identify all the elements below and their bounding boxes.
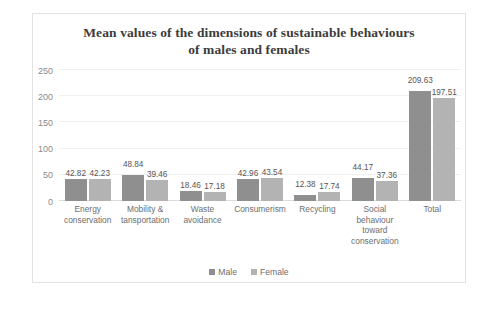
- plot-area: 050100150200250 42.8242.2348.8439.4618.4…: [59, 70, 461, 201]
- bar-value-label: 44.17: [353, 163, 374, 172]
- bar[interactable]: [89, 179, 111, 201]
- bar-female[interactable]: 17.18: [204, 70, 226, 201]
- category-label-line: conservation: [60, 215, 115, 226]
- bar-male[interactable]: 209.63: [409, 70, 431, 201]
- bar-value-label: 18.46: [180, 181, 201, 190]
- category-label-line: Social: [347, 204, 402, 215]
- legend-swatch-icon: [209, 269, 215, 275]
- category-label-line: Energy: [60, 204, 115, 215]
- bar-value-label: 42.23: [89, 169, 110, 178]
- category-label: Energyconservation: [59, 204, 116, 246]
- bar[interactable]: [146, 180, 168, 201]
- y-axis-tick-label: 50: [43, 170, 53, 180]
- category-label: Socialbehaviourtowardconservation: [346, 204, 403, 246]
- bar[interactable]: [261, 178, 283, 201]
- bar-group: 209.63197.51: [404, 70, 461, 201]
- bar-groups: 42.8242.2348.8439.4618.4617.1842.9643.54…: [59, 70, 461, 201]
- category-label: Consumerism: [231, 204, 288, 246]
- bar-group: 18.4617.18: [174, 70, 231, 201]
- bar-female[interactable]: 17.74: [318, 70, 340, 201]
- category-label-line: Waste: [175, 204, 230, 215]
- legend-label: Female: [260, 267, 289, 277]
- bar-value-label: 48.84: [123, 160, 144, 169]
- x-axis-category-labels: EnergyconservationMobility &tansportatio…: [59, 204, 461, 246]
- bar[interactable]: [376, 181, 398, 201]
- category-label-line: tansportation: [117, 215, 172, 226]
- category-label-line: toward: [347, 225, 402, 236]
- legend-label: Male: [218, 267, 237, 277]
- legend-item-female[interactable]: Female: [251, 267, 289, 277]
- bar[interactable]: [352, 178, 374, 201]
- chart-title: Mean values of the dimensions of sustain…: [33, 24, 465, 58]
- bar[interactable]: [204, 192, 226, 201]
- category-label-line: avoidance: [175, 215, 230, 226]
- bar-group: 12.3817.74: [289, 70, 346, 201]
- bar-value-label: 12.38: [295, 180, 316, 189]
- y-axis-tick-label: 200: [38, 92, 53, 102]
- bar-value-label: 17.74: [319, 182, 340, 191]
- category-label-line: behaviour: [347, 215, 402, 226]
- bar-male[interactable]: 42.82: [65, 70, 87, 201]
- category-label-line: Mobility &: [117, 204, 172, 215]
- legend-swatch-icon: [251, 269, 257, 275]
- bar-value-label: 209.63: [408, 76, 433, 85]
- bar-value-label: 43.54: [262, 168, 283, 177]
- bar[interactable]: [294, 195, 316, 201]
- category-label-line: Consumerism: [232, 204, 287, 215]
- category-label: Total: [404, 204, 461, 246]
- bar-value-label: 39.46: [147, 170, 168, 179]
- category-label-line: Recycling: [290, 204, 345, 215]
- y-axis-tick-label: 150: [38, 118, 53, 128]
- chart-title-line-1: Mean values of the dimensions of sustain…: [33, 24, 465, 41]
- bar-group: 42.8242.23: [59, 70, 116, 201]
- bar[interactable]: [122, 175, 144, 201]
- category-label: Recycling: [289, 204, 346, 246]
- bar-male[interactable]: 12.38: [294, 70, 316, 201]
- y-axis-tick-label: 100: [38, 144, 53, 154]
- bar-group: 48.8439.46: [116, 70, 173, 201]
- category-label: Mobility &tansportation: [116, 204, 173, 246]
- bar-female[interactable]: 37.36: [376, 70, 398, 201]
- bar[interactable]: [65, 179, 87, 201]
- bar-male[interactable]: 48.84: [122, 70, 144, 201]
- bar-female[interactable]: 43.54: [261, 70, 283, 201]
- chart-container: Mean values of the dimensions of sustain…: [32, 13, 466, 283]
- bar-female[interactable]: 42.23: [89, 70, 111, 201]
- bar[interactable]: [180, 191, 202, 201]
- legend-item-male[interactable]: Male: [209, 267, 237, 277]
- category-label: Wasteavoidance: [174, 204, 231, 246]
- chart-title-line-2: of males and females: [33, 41, 465, 58]
- bar-female[interactable]: 39.46: [146, 70, 168, 201]
- bar-value-label: 17.18: [204, 182, 225, 191]
- bar[interactable]: [237, 179, 259, 202]
- bar[interactable]: [433, 98, 455, 201]
- bar-value-label: 197.51: [432, 88, 457, 97]
- category-label-line: conservation: [347, 236, 402, 247]
- bar-value-label: 42.82: [65, 169, 86, 178]
- y-axis-tick-label: 250: [38, 66, 53, 76]
- bar-female[interactable]: 197.51: [433, 70, 455, 201]
- bar-male[interactable]: 18.46: [180, 70, 202, 201]
- bar-value-label: 37.36: [377, 171, 398, 180]
- chart-legend: MaleFemale: [33, 267, 465, 277]
- bar[interactable]: [318, 192, 340, 201]
- bar-group: 42.9643.54: [231, 70, 288, 201]
- bar-value-label: 42.96: [238, 169, 259, 178]
- bar-group: 44.1737.36: [346, 70, 403, 201]
- bar-male[interactable]: 44.17: [352, 70, 374, 201]
- bar-male[interactable]: 42.96: [237, 70, 259, 201]
- bar[interactable]: [409, 91, 431, 201]
- category-label-line: Total: [405, 204, 460, 215]
- y-axis-tick-label: 0: [48, 197, 53, 207]
